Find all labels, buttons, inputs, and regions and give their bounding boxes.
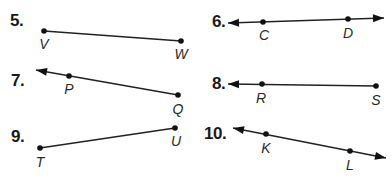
- problem-8-ray: [228, 80, 379, 89]
- point-label-s: S: [371, 93, 380, 107]
- point-t-dot: [37, 145, 43, 151]
- point-c-dot: [260, 19, 266, 25]
- problem-number: 5.: [10, 12, 23, 29]
- point-l-dot: [347, 148, 353, 154]
- arrowhead-icon: [228, 80, 239, 88]
- point-label-l: L: [346, 158, 354, 172]
- point-label-q: Q: [173, 102, 184, 116]
- arrowhead-icon: [233, 126, 245, 134]
- line-stroke: [228, 18, 384, 23]
- point-p-dot: [66, 73, 72, 79]
- point-label-t: T: [36, 155, 45, 169]
- figure-canvas: [0, 0, 391, 181]
- point-d-dot: [345, 16, 351, 22]
- point-label-u: U: [171, 134, 181, 148]
- point-label-d: D: [343, 26, 353, 40]
- problem-number: 6.: [212, 13, 225, 30]
- point-label-w: W: [174, 47, 187, 61]
- arrowhead-icon: [36, 68, 48, 76]
- point-r-dot: [259, 81, 265, 87]
- arrowhead-icon: [373, 14, 384, 22]
- problem-number: 9.: [11, 128, 24, 145]
- problem-10-line: [233, 126, 386, 160]
- point-label-v: V: [39, 37, 48, 51]
- problem-number: 10.: [204, 125, 226, 142]
- arrowhead-icon: [374, 152, 386, 160]
- point-w-dot: [178, 38, 184, 44]
- point-label-c: C: [259, 28, 269, 42]
- problem-9-segment: [37, 125, 178, 151]
- arrowhead-icon: [228, 19, 239, 27]
- problem-number: 8.: [212, 75, 225, 92]
- problem-5-segment: [41, 28, 184, 44]
- problem-7-ray: [36, 68, 181, 98]
- segment-stroke: [44, 31, 181, 41]
- point-s-dot: [373, 83, 379, 89]
- ray-stroke: [36, 70, 178, 95]
- point-label-k: K: [261, 141, 270, 155]
- point-v-dot: [41, 28, 47, 34]
- problem-6-line: [228, 14, 384, 26]
- point-label-p: P: [64, 82, 73, 96]
- point-q-dot: [175, 92, 181, 98]
- point-u-dot: [172, 125, 178, 131]
- line-stroke: [233, 128, 386, 158]
- point-k-dot: [263, 131, 269, 137]
- ray-stroke: [228, 84, 376, 86]
- segment-stroke: [40, 128, 175, 148]
- problem-number: 7.: [11, 72, 24, 89]
- point-label-r: R: [256, 91, 266, 105]
